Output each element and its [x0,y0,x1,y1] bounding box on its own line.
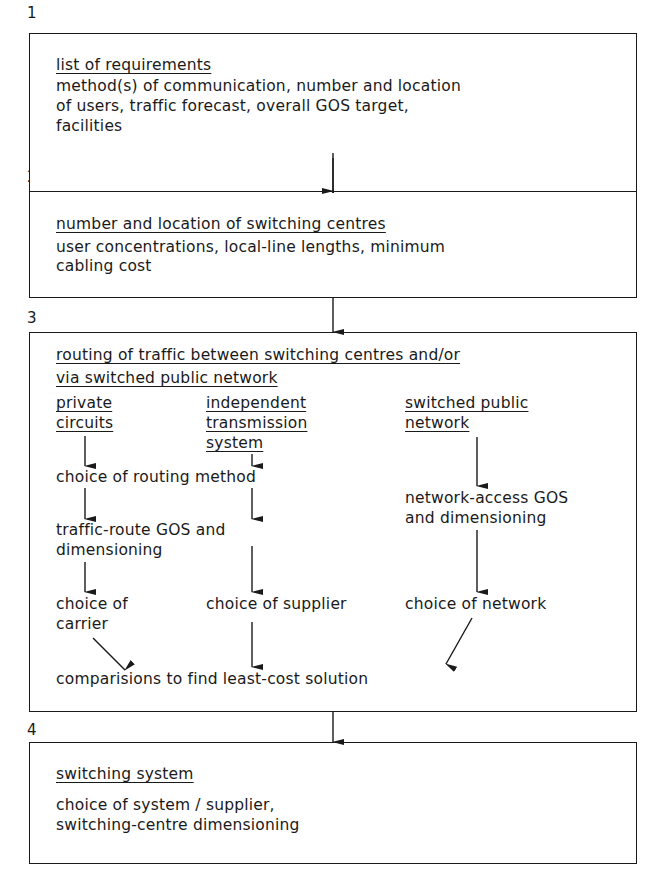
arrow-step1-to-step2 [0,0,661,892]
